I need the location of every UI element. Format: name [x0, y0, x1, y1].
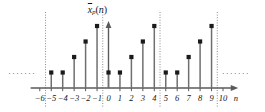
- stem-marker: [164, 70, 168, 74]
- stem-marker: [187, 55, 191, 59]
- stem-marker: [49, 70, 53, 74]
- x-axis-arrowhead: [231, 85, 239, 91]
- stem-marker: [106, 70, 110, 74]
- axes: [31, 21, 239, 91]
- stem-marker: [61, 70, 65, 74]
- stem-marker: [84, 39, 88, 43]
- x-tick-label: −6: [35, 94, 45, 103]
- y-axis-arrowhead: [106, 21, 112, 28]
- stem-marker: [152, 24, 156, 28]
- x-tick-label: 2: [129, 94, 133, 103]
- series-title-label: xp(n): [88, 5, 107, 16]
- x-tick-label: 10: [219, 94, 228, 103]
- x-tick-label: 9: [209, 94, 213, 103]
- x-tick-label: 0: [106, 94, 110, 103]
- x-tick-label: 8: [198, 94, 202, 103]
- stem-marker: [72, 55, 76, 59]
- x-tick-label: −2: [81, 94, 91, 103]
- right-continuation-ellipsis: ·······: [222, 68, 250, 78]
- stem-marker: [175, 70, 179, 74]
- x-tick-label: 7: [187, 94, 191, 103]
- stem-plot-figure: −6−5−4−3−2−1012345678910 xp(n) ······· ·…: [0, 0, 265, 112]
- x-tick-label: −1: [92, 94, 102, 103]
- x-tick-label: −4: [58, 94, 68, 103]
- stem-series: [49, 24, 214, 88]
- stem-marker: [141, 39, 145, 43]
- x-tick-label: 1: [118, 94, 122, 103]
- stem-marker: [95, 24, 99, 28]
- x-tick-label: 3: [141, 94, 145, 103]
- stem-marker: [129, 55, 133, 59]
- x-tick-label: −5: [46, 94, 56, 103]
- x-axis-label: n: [234, 94, 238, 103]
- x-tick-label: 6: [175, 94, 179, 103]
- left-continuation-ellipsis: ·······: [8, 68, 36, 78]
- x-tick-label: −3: [69, 94, 79, 103]
- stem-marker: [198, 39, 202, 43]
- x-tick-label: 4: [152, 94, 156, 103]
- stem-marker: [209, 24, 213, 28]
- x-tick-label: 5: [164, 94, 168, 103]
- stem-marker: [118, 70, 122, 74]
